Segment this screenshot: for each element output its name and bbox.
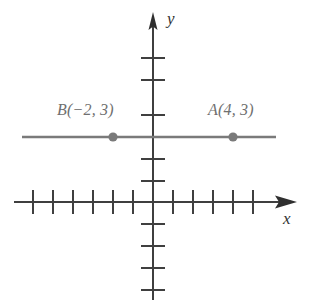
x-axis-label: x <box>283 209 291 229</box>
point-b-label: B(−2, 3) <box>57 101 114 119</box>
y-axis-label: y <box>167 9 175 29</box>
point-a-label: A(4, 3) <box>208 101 254 119</box>
coordinate-plane-svg <box>0 0 317 300</box>
coordinate-plane-figure: B(−2, 3) A(4, 3) y x <box>0 0 317 300</box>
point-b-marker <box>108 132 117 141</box>
point-a-marker <box>228 132 237 141</box>
